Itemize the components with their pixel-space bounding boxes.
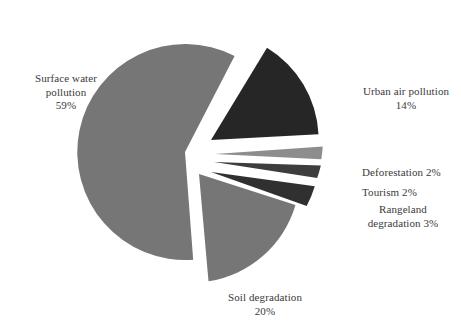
pie-label-tourism-line1: Tourism 2%	[362, 186, 461, 200]
pie-label-tourism: Tourism 2%	[362, 186, 461, 200]
pie-label-urban-air-pollution-value: 14%	[352, 99, 460, 113]
pie-label-soil-degradation-value: 20%	[195, 305, 335, 319]
pie-label-surface-water-pollution: Surface water pollution 59%	[14, 72, 118, 113]
pie-label-deforestation: Deforestation 2%	[362, 166, 461, 180]
pie-label-urban-air-pollution: Urban air pollution 14%	[352, 85, 460, 112]
pie-label-surface-water-pollution-value: 59%	[14, 99, 118, 113]
pie-slice-deforestation[interactable]	[215, 147, 323, 160]
pie-label-rangeland-degradation-line1: Rangeland	[345, 203, 461, 217]
pie-label-rangeland-degradation-line2: degradation 3%	[345, 217, 461, 231]
pie-label-deforestation-line1: Deforestation 2%	[362, 166, 461, 180]
pie-label-surface-water-pollution-line2: pollution	[14, 86, 118, 100]
pie-label-rangeland-degradation: Rangeland degradation 3%	[345, 203, 461, 230]
pie-chart-figure: Surface water pollution 59% Urban air po…	[0, 0, 461, 333]
pie-label-soil-degradation: Soil degradation 20%	[195, 291, 335, 318]
pie-label-urban-air-pollution-line1: Urban air pollution	[352, 85, 460, 99]
pie-label-surface-water-pollution-line1: Surface water	[14, 72, 118, 86]
pie-label-soil-degradation-line1: Soil degradation	[195, 291, 335, 305]
